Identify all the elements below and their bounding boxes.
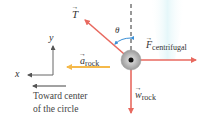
rock-center-dot (129, 58, 134, 63)
theta-label: θ (115, 26, 119, 35)
centrifugal-label: Fcentrifugal (146, 40, 187, 52)
diagram-canvas (0, 0, 204, 124)
center-note-line1: Toward center (33, 92, 87, 102)
free-body-diagram: T θ Fcentrifugal wrock arock y x Toward … (0, 0, 204, 124)
acceleration-label: arock (80, 56, 99, 68)
tension-label: T (72, 9, 78, 20)
y-axis-label: y (49, 33, 53, 43)
x-axis-label: x (15, 69, 19, 79)
center-note-line2: of the circle (33, 105, 78, 115)
theta-arc (115, 38, 131, 44)
weight-label: wrock (135, 90, 156, 102)
